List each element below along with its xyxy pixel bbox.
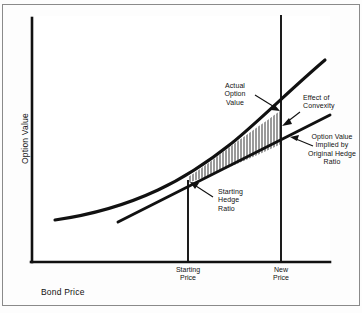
x-tick-starting-price: Starting Price — [163, 266, 213, 283]
figure-container: Option Value Bond Price Starting Price N… — [0, 0, 362, 313]
annotation-effect-of-convexity-line1: Effect of — [303, 94, 359, 102]
x-axis-title: Bond Price — [41, 287, 85, 297]
annotation-starting-hedge-ratio-line1: Starting — [218, 188, 260, 196]
annotation-implied-option-value-line3: Original Hedge — [305, 150, 359, 158]
annotation-actual-option-value-line2: Option — [216, 90, 254, 98]
annotation-actual-option-value-line3: Value — [216, 99, 254, 107]
y-axis-title: Option Value — [20, 113, 30, 164]
x-tick-new-price-line2: Price — [258, 274, 304, 282]
annotation-starting-hedge-ratio: Starting Hedge Ratio — [218, 188, 260, 213]
annotation-starting-hedge-ratio-line3: Ratio — [218, 205, 260, 213]
x-tick-starting-price-line1: Starting — [163, 266, 213, 274]
annotation-implied-option-value-line2: Implied by — [305, 141, 359, 149]
x-tick-starting-price-line2: Price — [163, 274, 213, 282]
annotation-implied-option-value-line4: Ratio — [305, 158, 359, 166]
annotation-effect-of-convexity: Effect of Convexity — [303, 94, 359, 111]
x-tick-new-price-line1: New — [258, 266, 304, 274]
annotation-implied-option-value: Option Value Implied by Original Hedge R… — [305, 133, 359, 167]
x-tick-new-price: New Price — [258, 266, 304, 283]
annotation-actual-option-value: Actual Option Value — [216, 82, 254, 107]
annotation-actual-option-value-line1: Actual — [216, 82, 254, 90]
annotation-implied-option-value-line1: Option Value — [305, 133, 359, 141]
annotation-starting-hedge-ratio-line2: Hedge — [218, 196, 260, 204]
annotation-effect-of-convexity-line2: Convexity — [303, 102, 359, 110]
